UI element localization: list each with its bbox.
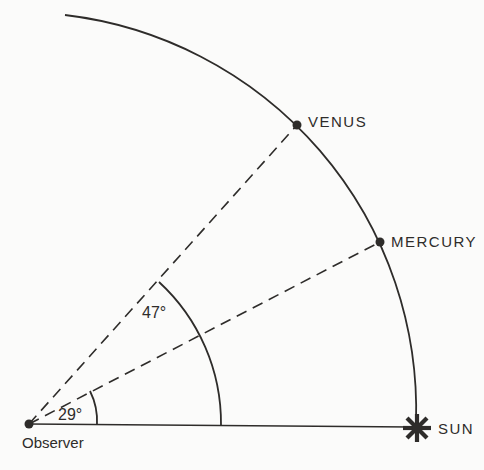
sun-icon bbox=[403, 414, 431, 442]
observer-mercury-sightline bbox=[29, 242, 380, 424]
celestial-sphere-arc bbox=[65, 15, 416, 423]
mercury-dot bbox=[376, 238, 385, 247]
sun-core bbox=[413, 424, 422, 433]
diagram-svg: VENUS MERCURY SUN Observer 47° 29° bbox=[0, 0, 484, 470]
venus-elongation-angle-arc bbox=[159, 282, 221, 425]
observer-venus-sightline bbox=[29, 125, 297, 424]
observer-dot bbox=[25, 420, 34, 429]
sun-label: SUN bbox=[438, 420, 474, 437]
mercury-elongation-angle-label: 29° bbox=[58, 406, 82, 423]
observer-sun-line bbox=[29, 424, 411, 427]
mercury-label: MERCURY bbox=[391, 233, 477, 250]
venus-elongation-angle-label: 47° bbox=[142, 304, 166, 321]
elongation-diagram: VENUS MERCURY SUN Observer 47° 29° bbox=[0, 0, 484, 470]
mercury-elongation-angle-arc bbox=[90, 391, 97, 425]
observer-label: Observer bbox=[22, 434, 84, 451]
venus-label: VENUS bbox=[308, 113, 367, 130]
venus-dot bbox=[293, 121, 302, 130]
